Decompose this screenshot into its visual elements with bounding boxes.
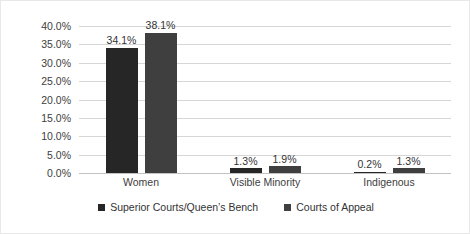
x-axis-category-label: Women — [79, 176, 203, 188]
legend-swatch-icon — [98, 204, 105, 211]
x-axis: Women Visible Minority Indigenous — [79, 176, 451, 188]
bar-indigenous-superior-courts[interactable] — [354, 172, 386, 174]
category-group-visible-minority: 1.3% 1.9% — [203, 26, 327, 173]
bar-group-women-series2: 38.1% — [145, 26, 177, 173]
x-axis-category-label: Visible Minority — [203, 176, 327, 188]
category-group-women: 34.1% 38.1% — [79, 26, 203, 173]
y-axis-tick-label: 40.0% — [9, 21, 71, 32]
y-axis-tick-label: 30.0% — [9, 58, 71, 69]
legend-item-superior-courts[interactable]: Superior Courts/Queen’s Bench — [98, 201, 258, 213]
bar-group-women-series1: 34.1% — [106, 26, 138, 173]
y-axis-tick-label: 25.0% — [9, 76, 71, 87]
bar-value-label: 1.3% — [397, 156, 421, 167]
bar-value-label: 1.9% — [273, 154, 297, 165]
y-axis-tick-label: 20.0% — [9, 94, 71, 105]
y-axis-tick-label: 5.0% — [9, 149, 71, 160]
legend-swatch-icon — [284, 204, 291, 211]
bar-group-indigenous-series1: 0.2% — [354, 26, 386, 173]
bar-value-label: 1.3% — [234, 156, 258, 167]
category-group-indigenous: 0.2% 1.3% — [327, 26, 451, 173]
y-axis-tick-label: 10.0% — [9, 131, 71, 142]
y-axis-tick-label: 35.0% — [9, 39, 71, 50]
bar-group-indigenous-series2: 1.3% — [393, 26, 425, 173]
bar-value-label: 38.1% — [146, 20, 176, 31]
bar-women-courts-of-appeal[interactable] — [145, 33, 177, 173]
bars-layer: 34.1% 38.1% 1.3% 1.9% 0.2% — [79, 26, 451, 173]
bar-group-visible-minority-series1: 1.3% — [230, 26, 262, 173]
chart-legend: Superior Courts/Queen’s Bench Courts of … — [1, 201, 470, 213]
x-axis-category-label: Indigenous — [327, 176, 451, 188]
bar-indigenous-courts-of-appeal[interactable] — [393, 168, 425, 173]
y-axis: 40.0% 35.0% 30.0% 25.0% 20.0% 15.0% 10.0… — [9, 26, 71, 173]
legend-label: Superior Courts/Queen’s Bench — [110, 201, 258, 213]
bar-women-superior-courts[interactable] — [106, 48, 138, 173]
y-axis-tick-label: 15.0% — [9, 113, 71, 124]
bar-visible-minority-superior-courts[interactable] — [230, 168, 262, 173]
axis-baseline — [79, 173, 451, 174]
bar-value-label: 0.2% — [358, 159, 382, 170]
legend-label: Courts of Appeal — [296, 201, 374, 213]
bar-value-label: 34.1% — [107, 35, 137, 46]
bar-group-visible-minority-series2: 1.9% — [269, 26, 301, 173]
legend-item-courts-of-appeal[interactable]: Courts of Appeal — [284, 201, 374, 213]
bar-chart: 40.0% 35.0% 30.0% 25.0% 20.0% 15.0% 10.0… — [0, 0, 470, 234]
y-axis-tick-label: 0.0% — [9, 168, 71, 179]
bar-visible-minority-courts-of-appeal[interactable] — [269, 166, 301, 173]
